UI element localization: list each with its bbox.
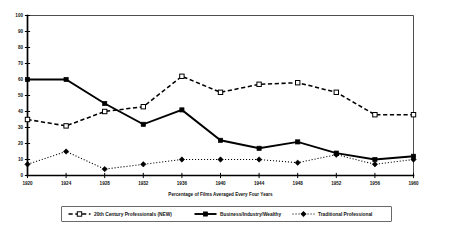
data-point — [334, 151, 338, 155]
y-axis-tick-label: 0 — [20, 173, 23, 178]
y-axis-tick-label: 90 — [18, 29, 24, 34]
data-point — [103, 101, 107, 105]
data-point — [372, 162, 377, 167]
x-axis-tick-label: 1944 — [254, 181, 265, 186]
data-point — [25, 162, 30, 167]
x-axis-tick-label: 1956 — [370, 181, 381, 186]
y-axis-tick-label: 70 — [18, 61, 24, 66]
x-axis-tick-label: 1948 — [293, 181, 304, 186]
legend-marker-1 — [77, 212, 81, 216]
data-point — [141, 122, 145, 126]
data-point — [373, 157, 377, 161]
x-axis-tick-label: 1920 — [22, 181, 33, 186]
x-axis-tick-label: 1928 — [100, 181, 111, 186]
legend-marker-2 — [203, 212, 207, 216]
chart-figure: 0102030405060708090100192019241928193219… — [0, 0, 449, 231]
data-point — [64, 124, 68, 128]
data-point — [25, 77, 29, 81]
data-point — [141, 105, 145, 109]
data-point — [103, 109, 107, 113]
x-axis-tick-label: 1952 — [331, 181, 342, 186]
data-point — [179, 157, 184, 162]
y-axis-tick-label: 50 — [18, 93, 24, 98]
series-3 — [25, 149, 416, 172]
data-point — [218, 157, 223, 162]
legend-label-1: 20th Century Professionals (NEW) — [94, 212, 172, 217]
data-point — [411, 113, 415, 117]
y-axis-tick-label: 40 — [18, 109, 24, 114]
data-point — [257, 146, 261, 150]
series-1 — [25, 74, 415, 128]
data-point — [102, 166, 107, 171]
plot-area-border — [28, 16, 414, 176]
data-point — [180, 108, 184, 112]
x-axis-tick-label: 1960 — [408, 181, 419, 186]
data-point — [25, 117, 29, 121]
data-point — [64, 77, 68, 81]
data-point — [257, 82, 261, 86]
series-line-1 — [28, 76, 414, 126]
data-point — [180, 74, 184, 78]
data-point — [373, 113, 377, 117]
data-point — [141, 162, 146, 167]
data-point — [256, 157, 261, 162]
y-axis-tick-label: 80 — [18, 45, 24, 50]
data-point — [411, 154, 415, 158]
x-axis-title: Percentage of Films Averaged Every Four … — [168, 192, 273, 197]
data-point — [334, 90, 338, 94]
y-axis-tick-label: 60 — [18, 77, 24, 82]
y-axis-tick-label: 30 — [18, 125, 24, 130]
x-axis-tick-label: 1936 — [177, 181, 188, 186]
y-axis-tick-label: 20 — [18, 141, 24, 146]
y-axis-tick-label: 10 — [18, 157, 24, 162]
x-axis-tick-label: 1932 — [138, 181, 149, 186]
x-axis-tick-label: 1940 — [215, 181, 226, 186]
data-point — [218, 138, 222, 142]
legend-item-3[interactable]: Traditional Professional — [293, 211, 373, 217]
data-point — [63, 149, 68, 154]
x-axis-tick-label: 1924 — [61, 181, 72, 186]
data-point — [295, 160, 300, 165]
legend-label-3: Traditional Professional — [318, 212, 372, 217]
legend-label-2: Business/Industry/Wealthy — [220, 212, 282, 217]
chart-legend: 20th Century Professionals (NEW)Business… — [62, 207, 392, 222]
y-axis-tick-label: 100 — [15, 13, 23, 18]
data-point — [296, 81, 300, 85]
data-point — [296, 140, 300, 144]
line-chart: 0102030405060708090100192019241928193219… — [0, 0, 449, 231]
legend-item-2[interactable]: Business/Industry/Wealthy — [195, 212, 282, 217]
data-point — [218, 90, 222, 94]
